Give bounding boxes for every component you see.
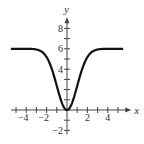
x-tick-label: −2	[38, 112, 49, 123]
y-axis-arrow-icon	[65, 17, 70, 23]
x-axis-arrow-icon	[125, 108, 131, 113]
x-tick-label: 2	[85, 112, 90, 123]
x-axis-label: x	[133, 104, 139, 116]
x-tick-label: 4	[105, 112, 110, 123]
y-tick-label: 8	[58, 23, 63, 34]
y-tick-label: 6	[58, 43, 63, 54]
y-tick-label: −2	[52, 125, 63, 136]
y-tick-label: 4	[58, 64, 63, 75]
axes	[11, 17, 131, 134]
function-graph: −4−224−2468 x y	[0, 0, 144, 144]
y-axis-label: y	[63, 3, 69, 15]
x-tick-label: −4	[18, 112, 29, 123]
